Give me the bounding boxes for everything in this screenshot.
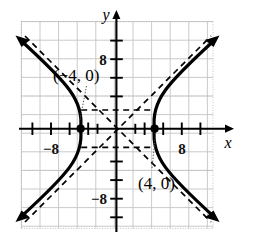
vertex-dot-right [151,125,159,133]
vertex-dot-left [77,125,85,133]
x-axis-label: x [223,134,231,151]
coordinate-plane: x y −8 8 8 −8 (−4, 0) (4, 0) [0,0,254,241]
left-vertex-label: (−4, 0) [53,66,99,85]
x-tick-label-neg8: −8 [43,141,59,157]
y-tick-label-neg8: −8 [91,191,107,207]
x-tick-label-8: 8 [178,141,186,157]
left-branch-upper [22,42,81,129]
y-tick-label-8: 8 [99,52,107,68]
hyperbola-graph-figure: x y −8 8 8 −8 (−4, 0) (4, 0) [0,0,254,241]
right-vertex-label: (4, 0) [138,174,175,193]
y-axis-label: y [100,6,110,24]
